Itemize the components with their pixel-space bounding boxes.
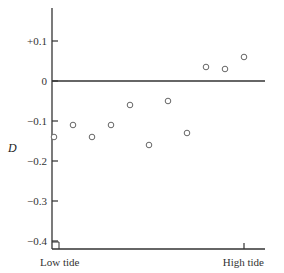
x-label-high-tide: High tide [223,256,264,268]
scatter-chart: +0.10−0.1−0.2−0.3−0.4Low tideHigh tideD [0,0,284,273]
data-point [241,54,247,60]
low-tide-tick [52,242,59,249]
data-point [89,134,95,140]
data-point [108,122,114,128]
data-points [51,54,247,148]
y-tick-label: −0.2 [27,155,47,167]
x-label-low-tide: Low tide [40,256,80,268]
y-tick-label: −0.4 [27,235,47,247]
y-axis-title: D [7,141,17,155]
data-point [165,98,171,104]
data-point [222,66,228,72]
data-point [70,122,76,128]
y-tick-label: −0.1 [27,115,47,127]
axes [52,8,265,249]
data-point [127,102,133,108]
y-tick-label: +0.1 [27,35,47,47]
data-point [184,130,190,136]
data-point [146,142,152,148]
data-point [203,64,209,70]
y-tick-label: −0.3 [27,195,47,207]
data-point [51,134,57,140]
y-tick-label: 0 [42,75,48,87]
